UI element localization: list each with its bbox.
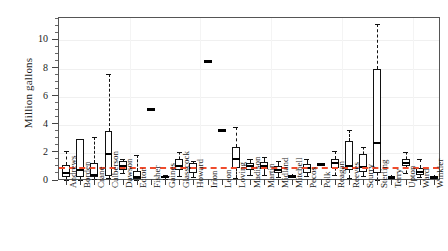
x-tick-label: Winkler bbox=[436, 159, 445, 188]
y-tick-label: 8 bbox=[22, 63, 48, 73]
x-tick-label: Crane bbox=[97, 167, 106, 189]
chart-root: Million gallons 0246810 AndrewsBordenCra… bbox=[0, 0, 448, 251]
x-tick-label: Ector bbox=[139, 169, 148, 189]
y-tick-label: 4 bbox=[22, 119, 48, 129]
x-tick-label: Dawson bbox=[125, 159, 134, 189]
x-tick-label: Ward bbox=[422, 169, 431, 188]
y-tick-label: 10 bbox=[22, 34, 48, 44]
x-tick-label: Midland bbox=[281, 158, 290, 189]
x-tick-label: Reeves bbox=[352, 162, 361, 188]
x-tick-label: Reagan bbox=[337, 161, 346, 188]
x-tick-label: Leon bbox=[224, 170, 233, 189]
x-tick-label: Pecos bbox=[309, 167, 318, 188]
x-tick bbox=[165, 179, 166, 185]
x-tick-label: Madison bbox=[253, 157, 262, 189]
x-tick-label: Martin bbox=[267, 164, 276, 189]
x-tick bbox=[66, 179, 67, 185]
x-tick-label: Irion bbox=[210, 171, 219, 189]
x-tick-label: Andrews bbox=[69, 156, 78, 189]
y-tick-label: 0 bbox=[22, 175, 48, 185]
x-tick-label: Fisher bbox=[153, 166, 162, 189]
x-tick bbox=[264, 179, 265, 185]
x-tick-label: Upton bbox=[408, 166, 417, 189]
x-tick-label: Polk bbox=[323, 171, 332, 188]
x-tick-label: Gaines bbox=[168, 163, 177, 188]
y-tick-label: 6 bbox=[22, 91, 48, 101]
x-tick-label: Mitchell bbox=[295, 158, 304, 189]
y-tick-label: 2 bbox=[22, 147, 48, 157]
x-tick bbox=[250, 179, 251, 185]
x-tick-label: Howard bbox=[196, 159, 205, 188]
x-tick-label: Borden bbox=[83, 162, 92, 189]
x-tick-label: Sterling bbox=[380, 160, 389, 189]
x-tick-label: Glasscock bbox=[182, 151, 191, 188]
x-tick bbox=[349, 179, 350, 185]
x-tick-label: Culberson bbox=[111, 151, 120, 188]
x-tick-label: Loving bbox=[238, 162, 247, 188]
x-tick-label: Terry bbox=[394, 169, 403, 188]
x-tick-label: Scurry bbox=[366, 164, 375, 188]
